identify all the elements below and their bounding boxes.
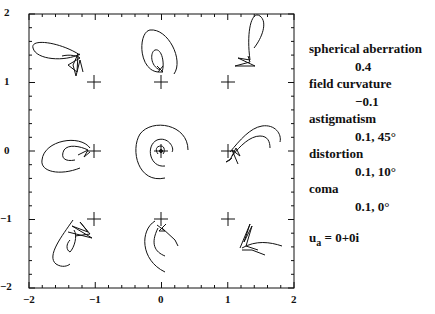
legend-label: distortion xyxy=(309,145,422,163)
legend-value: −0.1 xyxy=(309,93,422,111)
x-tick-label: −2 xyxy=(23,293,35,305)
legend-label: field curvature xyxy=(309,75,422,93)
legend-value: 0.4 xyxy=(309,58,422,76)
y-tick-label: 1 xyxy=(4,75,10,87)
x-tick-label: −1 xyxy=(89,293,101,305)
legend-value: 0.1, 45° xyxy=(309,128,422,146)
x-tick-label: 1 xyxy=(225,293,231,305)
legend-label: coma xyxy=(309,180,422,198)
x-tick-label: 2 xyxy=(291,293,297,305)
legend-value: 0.1, 0° xyxy=(309,198,422,216)
aberration-curves xyxy=(33,15,282,272)
x-tick-label: 0 xyxy=(158,293,164,305)
parameter-legend: spherical aberration 0.4 field curvature… xyxy=(309,40,422,215)
y-tick-label: −2 xyxy=(0,280,12,292)
legend-label: astigmatism xyxy=(309,110,422,128)
legend-value: 0.1, 10° xyxy=(309,163,422,181)
y-tick-label: 0 xyxy=(4,144,10,156)
y-tick-label: −1 xyxy=(0,212,12,224)
ua-annotation: ua = 0+0i xyxy=(309,230,359,248)
y-tick-label: 2 xyxy=(4,6,10,18)
ua-value: = 0+0i xyxy=(321,230,359,245)
legend-label: spherical aberration xyxy=(309,40,422,58)
